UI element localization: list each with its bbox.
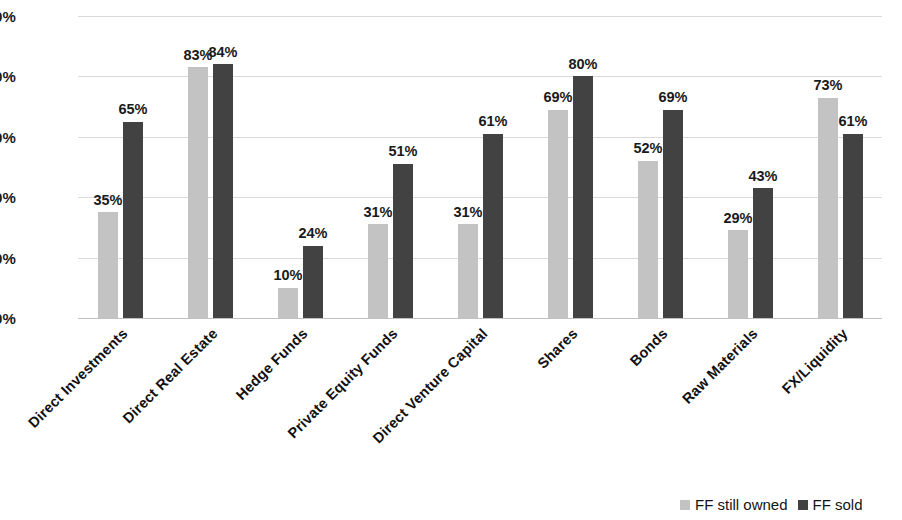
y-axis-tick-label: 40% xyxy=(0,190,16,205)
bar-group: 83%84% xyxy=(188,16,233,318)
bar-group: 31%51% xyxy=(368,16,413,318)
bar-value-label: 24% xyxy=(290,226,336,241)
legend-swatch-icon xyxy=(680,500,690,510)
bar: 69% xyxy=(663,110,683,318)
y-axis-tick-label: 100% xyxy=(0,9,16,24)
bar-group: 10%24% xyxy=(278,16,323,318)
bar: 35% xyxy=(98,212,118,318)
bar: 80% xyxy=(573,76,593,318)
legend-label: FF sold xyxy=(813,497,863,512)
gridline xyxy=(78,318,882,319)
bar: 65% xyxy=(123,122,143,318)
bar: 43% xyxy=(753,188,773,318)
bar-value-label: 61% xyxy=(830,114,876,129)
legend-swatch-icon xyxy=(798,500,808,510)
x-axis-category-label: Shares xyxy=(535,326,580,371)
y-axis-tick-label: 80% xyxy=(0,69,16,84)
bar: 29% xyxy=(728,230,748,318)
bar-value-label: 65% xyxy=(110,102,156,117)
bar-group: 31%61% xyxy=(458,16,503,318)
bar-chart: 100%80%60%40%20%0% 35%65%83%84%10%24%31%… xyxy=(0,0,902,520)
legend-item[interactable]: FF sold xyxy=(798,497,863,512)
bar: 69% xyxy=(548,110,568,318)
legend-item[interactable]: FF still owned xyxy=(680,497,788,512)
bar-value-label: 51% xyxy=(380,144,426,159)
x-axis-category-label: Bonds xyxy=(627,326,670,369)
bar-group: 29%43% xyxy=(728,16,773,318)
bar: 61% xyxy=(843,134,863,318)
bar: 31% xyxy=(458,224,478,318)
x-axis-category-label: Direct Investments xyxy=(26,326,131,431)
bar-group: 35%65% xyxy=(98,16,143,318)
bar: 84% xyxy=(213,64,233,318)
y-axis-tick-label: 0% xyxy=(0,311,16,326)
bar-value-label: 69% xyxy=(650,90,696,105)
bar-value-label: 80% xyxy=(560,57,606,72)
bar: 24% xyxy=(303,246,323,318)
bar: 83% xyxy=(188,67,208,318)
bar: 61% xyxy=(483,134,503,318)
x-axis-category-label: FX/Liquidity xyxy=(780,326,851,397)
plot-area: 35%65%83%84%10%24%31%51%31%61%69%80%52%6… xyxy=(78,16,882,318)
bar: 51% xyxy=(393,164,413,318)
x-axis-category-label: Raw Materials xyxy=(680,326,760,406)
bar-group: 52%69% xyxy=(638,16,683,318)
bar: 10% xyxy=(278,288,298,318)
legend-label: FF still owned xyxy=(695,497,788,512)
bar-value-label: 84% xyxy=(200,45,246,60)
bar: 73% xyxy=(818,98,838,318)
bar-value-label: 43% xyxy=(740,169,786,184)
bar: 31% xyxy=(368,224,388,318)
y-axis-tick-label: 20% xyxy=(0,251,16,266)
x-axis-category-label: Direct Real Estate xyxy=(120,326,220,426)
x-axis-category-label: Hedge Funds xyxy=(233,326,310,403)
chart-legend: FF still ownedFF sold xyxy=(680,497,863,512)
bar-group: 69%80% xyxy=(548,16,593,318)
bar-value-label: 73% xyxy=(805,78,851,93)
y-axis-tick-label: 60% xyxy=(0,130,16,145)
bar-group: 73%61% xyxy=(818,16,863,318)
bar: 52% xyxy=(638,161,658,318)
bar-value-label: 61% xyxy=(470,114,516,129)
